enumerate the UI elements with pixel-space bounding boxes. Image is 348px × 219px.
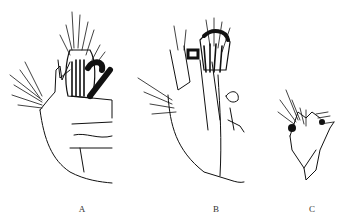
panel-a-drawing [10,12,112,183]
panel-b-label: B [213,204,219,214]
panel-c-drawing [278,90,334,180]
panel-b-drawing [138,18,244,182]
figure-drawings: A B [0,0,348,219]
panel-a-label: A [79,204,86,214]
figure: A B [0,0,348,219]
panel-c-label: C [309,204,315,214]
